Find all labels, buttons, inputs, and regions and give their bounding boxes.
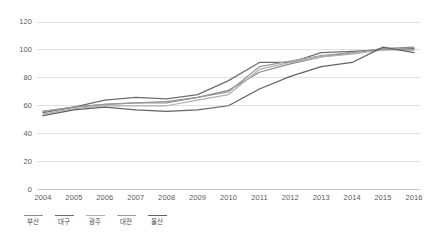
line-chart: 020406080100120 200420052006200720082009… (0, 0, 429, 247)
x-tick-label: 2007 (120, 193, 152, 202)
x-tick-label: 2015 (367, 193, 399, 202)
y-tick-label: 20 (0, 157, 32, 166)
legend-swatch (24, 215, 43, 216)
y-tick-label: 60 (0, 101, 32, 110)
legend-item[interactable]: 광주 (84, 215, 106, 226)
legend-label: 부산 (27, 219, 39, 226)
legend-label: 대전 (120, 219, 132, 226)
x-tick-label: 2005 (58, 193, 90, 202)
x-tick-label: 2010 (213, 193, 245, 202)
legend-swatch (55, 215, 74, 216)
legend-item[interactable]: 대구 (53, 215, 75, 226)
legend-item[interactable]: 울산 (146, 215, 168, 226)
legend-label: 대구 (58, 219, 70, 226)
legend-label: 광주 (89, 219, 101, 226)
chart-legend: 부산대구광주대전울산 (22, 215, 168, 226)
x-tick-label: 2009 (182, 193, 214, 202)
chart-plot-area (0, 0, 429, 247)
x-tick-label: 2014 (336, 193, 368, 202)
x-tick-label: 2006 (89, 193, 121, 202)
x-tick-label: 2011 (243, 193, 275, 202)
legend-item[interactable]: 부산 (22, 215, 44, 226)
legend-label: 울산 (151, 219, 163, 226)
x-tick-label: 2013 (305, 193, 337, 202)
y-tick-label: 40 (0, 129, 32, 138)
y-tick-label: 120 (0, 17, 32, 26)
y-tick-label: 80 (0, 73, 32, 82)
legend-swatch (86, 215, 105, 216)
y-tick-label: 100 (0, 45, 32, 54)
series-line-1 (43, 49, 414, 113)
legend-swatch (148, 215, 167, 216)
legend-item[interactable]: 대전 (115, 215, 137, 226)
x-tick-label: 2008 (151, 193, 183, 202)
legend-swatch (117, 215, 136, 216)
x-tick-label: 2004 (27, 193, 59, 202)
x-tick-label: 2012 (274, 193, 306, 202)
x-tick-label: 2016 (398, 193, 429, 202)
